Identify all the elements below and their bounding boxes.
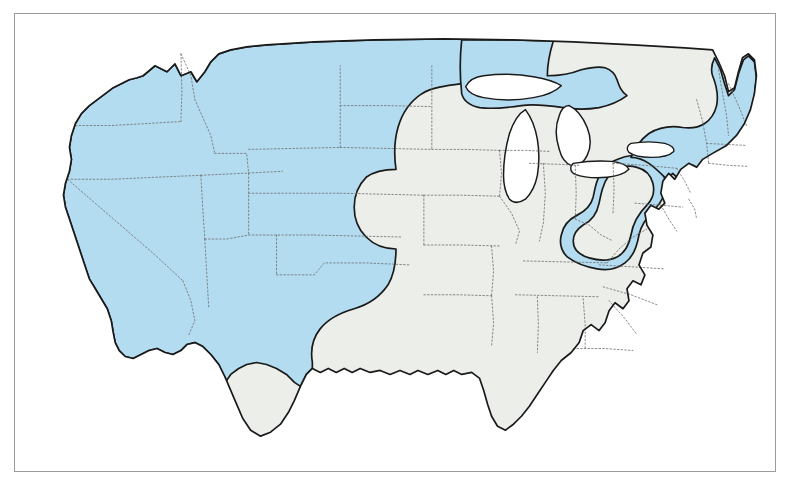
- figure-root: [0, 0, 792, 484]
- map-frame: [14, 13, 776, 472]
- us-map-svg: [15, 14, 775, 471]
- state-border-de: [689, 199, 697, 219]
- map-canvas: [15, 14, 775, 471]
- lake-ontario: [627, 142, 674, 157]
- state-border-md-va: [661, 205, 677, 231]
- state-border-ga-fl: [573, 349, 633, 351]
- state-border-ma-ct: [709, 163, 749, 166]
